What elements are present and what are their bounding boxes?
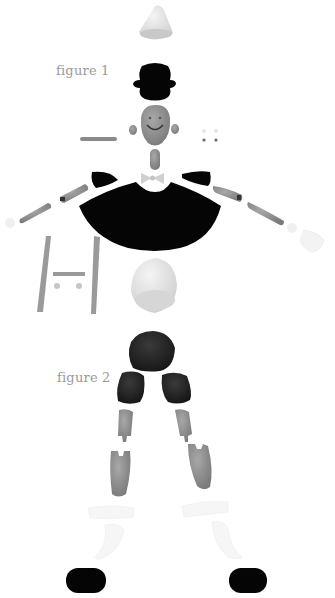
neck-icon [150,149,160,170]
left-shoe-icon [66,568,106,593]
right-arm-icon [213,186,324,252]
egg-body-icon [131,258,177,313]
right-knee-icon [175,409,192,442]
hips-icon [129,331,175,372]
cape-icon [79,182,221,251]
legs-frame-icon [37,236,100,314]
parts-diagram: figure 1 figure 2 [0,0,335,598]
left-shoulder-icon [92,172,119,188]
left-sock-icon [88,506,134,560]
right-ear-icon [171,124,179,134]
left-shin-icon [110,451,130,497]
bow-tie-icon [141,173,164,184]
right-shin-icon [188,444,212,489]
left-thigh-icon [117,372,144,404]
right-hand-icon [300,230,324,252]
top-hat-icon [133,63,176,101]
right-shoulder-icon [182,171,211,186]
left-knee-icon [118,409,133,442]
eyes-icon [202,129,218,142]
head-icon [141,105,170,146]
eyebrow-stick-icon [80,137,117,141]
right-thigh-icon [162,373,191,404]
parts-illustration [0,0,335,598]
left-arm-icon [5,184,88,228]
left-ear-icon [129,125,137,135]
right-shoe-icon [229,568,267,593]
nose-cone-icon [139,6,173,40]
right-sock-icon [182,502,242,559]
